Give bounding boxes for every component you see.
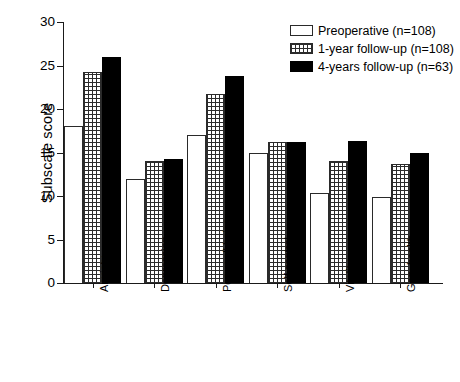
bar-preop — [310, 193, 329, 283]
y-axis-tick-label: 25 — [40, 58, 55, 73]
x-axis-label-gen-health: Gen. health — [405, 162, 417, 292]
y-axis-tick-label: 20 — [40, 101, 55, 116]
bar-preop — [126, 179, 145, 283]
x-axis-label-anxiety: Anxiety — [98, 162, 110, 292]
bar-preop — [187, 135, 206, 283]
x-axis-tick — [154, 283, 155, 288]
legend-item-label: 1-year follow-up (n=108) — [318, 42, 454, 56]
legend-item-label: 4-years follow-up (n=63) — [318, 60, 453, 74]
legend-item: Preoperative (n=108) — [290, 22, 460, 39]
x-axis-label-vitality: Vitality — [344, 162, 356, 292]
white-box-icon — [290, 25, 313, 36]
legend-item-label: Preoperative (n=108) — [318, 24, 436, 38]
bar-group — [64, 22, 121, 283]
x-axis-tick — [400, 283, 401, 288]
y-axis-tick-label: 0 — [47, 275, 55, 290]
bar-chart-figure: Subscale score 051015202530 AnxietyDepre… — [0, 0, 460, 382]
chart-legend: Preoperative (n=108)1-year follow-up (n=… — [290, 22, 460, 76]
y-axis-tick-label: 30 — [40, 14, 55, 29]
hatched-box-icon — [290, 43, 313, 54]
y-axis-tick-label: 10 — [40, 188, 55, 203]
y-axis-tick-label: 5 — [47, 232, 55, 247]
x-axis-tick — [339, 283, 340, 288]
legend-item: 1-year follow-up (n=108) — [290, 40, 460, 57]
bar-preop — [249, 153, 268, 284]
x-axis-label-depression: Depression — [159, 162, 171, 292]
bar-preop — [64, 126, 83, 283]
bar-group — [187, 22, 244, 283]
bar-group — [126, 22, 183, 283]
bar-preop — [372, 197, 391, 283]
y-axis-tick-label: 15 — [40, 145, 55, 160]
legend-item: 4-years follow-up (n=63) — [290, 58, 460, 75]
x-axis-tick — [216, 283, 217, 288]
x-axis-label-self-control: Self control — [282, 162, 294, 292]
x-axis-label-pos-well-being: Pos. well being — [221, 162, 233, 292]
black-box-icon — [290, 61, 313, 72]
x-axis-line — [63, 283, 443, 284]
y-axis-tick: 0 — [57, 283, 63, 284]
x-axis-tick — [277, 283, 278, 288]
x-axis-tick — [93, 283, 94, 288]
